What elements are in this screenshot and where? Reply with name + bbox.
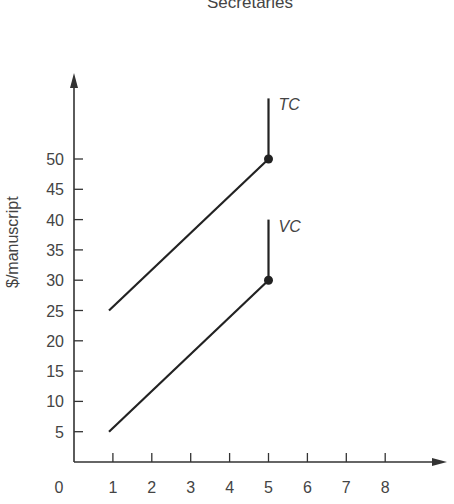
x-axis-arrow-icon xyxy=(432,458,447,466)
series-layer: TCVC xyxy=(109,96,301,431)
chart-canvas: 1234567805101520253035404550 TCVC xyxy=(0,0,454,504)
vc-line xyxy=(109,280,268,432)
y-axis-arrow-icon xyxy=(70,73,78,88)
tc-line xyxy=(109,159,268,311)
y-tick-label: 5 xyxy=(55,424,64,441)
vc-endpoint-marker xyxy=(264,276,273,285)
y-tick-label: 20 xyxy=(46,333,64,350)
x-tick-label: 2 xyxy=(147,479,156,496)
y-tick-label: 40 xyxy=(46,212,64,229)
x-tick-label: 6 xyxy=(303,479,312,496)
x-tick-label: 3 xyxy=(186,479,195,496)
tc-endpoint-marker xyxy=(264,155,273,164)
y-tick-label: 25 xyxy=(46,303,64,320)
y-tick-label: 50 xyxy=(46,151,64,168)
x-tick-label: 5 xyxy=(264,479,273,496)
y-tick-label: 10 xyxy=(46,393,64,410)
x-tick-label: 1 xyxy=(108,479,117,496)
tc-label: TC xyxy=(279,96,301,113)
y-tick-label: 45 xyxy=(46,181,64,198)
x-tick-label: 7 xyxy=(342,479,351,496)
y-tick-label: 35 xyxy=(46,242,64,259)
origin-label: 0 xyxy=(55,479,64,496)
vc-label: VC xyxy=(279,218,302,235)
y-tick-label: 15 xyxy=(46,363,64,380)
axes: 1234567805101520253035404550 xyxy=(46,73,447,496)
x-tick-label: 4 xyxy=(225,479,234,496)
y-tick-label: 30 xyxy=(46,272,64,289)
x-tick-label: 8 xyxy=(381,479,390,496)
